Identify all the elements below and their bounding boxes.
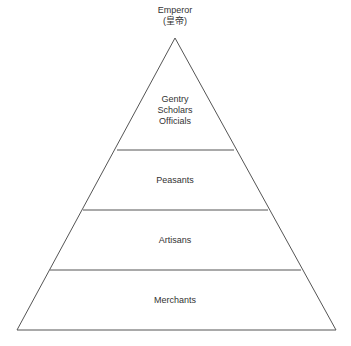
tier-gentry: Gentry Scholars Officials [115,94,235,127]
emperor-sublabel: (皇帝) [115,16,235,27]
tier-label: Scholars [115,105,235,116]
apex-label: Emperor (皇帝) [115,5,235,27]
tier-label: Artisans [115,235,235,246]
tier-label: Officials [115,116,235,127]
tier-label: Merchants [115,295,235,306]
tier-merchants: Merchants [115,295,235,306]
emperor-label: Emperor [115,5,235,16]
tier-label: Peasants [115,175,235,186]
tier-peasants: Peasants [115,175,235,186]
tier-label: Gentry [115,94,235,105]
tier-artisans: Artisans [115,235,235,246]
